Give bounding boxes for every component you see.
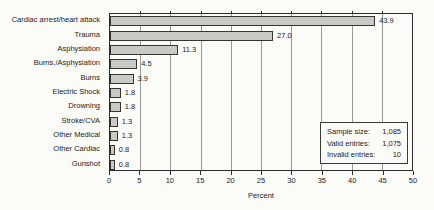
bar-chart-figure: 43.927.011.34.53.91.81.81.31.30.80.8 Car… bbox=[0, 0, 434, 210]
x-tick-top bbox=[291, 11, 292, 13]
bar-value-label: 1.8 bbox=[125, 88, 135, 98]
x-tick bbox=[109, 171, 110, 175]
info-row: Valid entries:1,075 bbox=[327, 139, 401, 149]
x-tick-label: 30 bbox=[279, 176, 303, 185]
x-tick bbox=[231, 171, 232, 175]
bar-value-label: 4.5 bbox=[141, 59, 151, 69]
info-label: Valid entries: bbox=[327, 139, 370, 149]
bar-value-label: 43.9 bbox=[379, 16, 394, 26]
x-tick bbox=[291, 171, 292, 175]
category-label: Asphysiation bbox=[0, 44, 100, 54]
x-tick-top bbox=[140, 11, 141, 13]
bar-value-label: 27.0 bbox=[277, 31, 292, 41]
x-tick bbox=[261, 171, 262, 175]
info-row: Invalid entries:10 bbox=[327, 150, 401, 160]
x-tick-label: 20 bbox=[219, 176, 243, 185]
bar-value-label: 1.3 bbox=[122, 131, 132, 141]
x-tick-label: 45 bbox=[371, 176, 395, 185]
bar bbox=[110, 131, 118, 141]
category-label: Drowning bbox=[0, 101, 100, 111]
info-label: Sample size: bbox=[327, 127, 370, 137]
category-label: Trauma bbox=[0, 30, 100, 40]
category-label: Other Cardiac bbox=[0, 144, 100, 154]
bar bbox=[110, 45, 178, 55]
info-value: 1,075 bbox=[382, 139, 401, 149]
bar-value-label: 11.3 bbox=[182, 45, 196, 55]
x-tick bbox=[139, 171, 140, 175]
bar-value-label: 1.3 bbox=[122, 117, 132, 127]
x-tick-top bbox=[352, 11, 353, 13]
bar bbox=[110, 117, 118, 127]
info-value: 10 bbox=[393, 150, 401, 160]
bar-value-label: 1.8 bbox=[125, 102, 135, 112]
bar bbox=[110, 160, 115, 170]
x-tick bbox=[413, 171, 414, 175]
sample-info-box: Sample size:1,085Valid entries:1,075Inva… bbox=[320, 122, 408, 164]
x-tick bbox=[322, 171, 323, 175]
category-label: Other Medical bbox=[0, 130, 100, 140]
x-axis-title: Percent bbox=[109, 191, 413, 200]
category-label: Gunshot bbox=[0, 159, 100, 169]
bar-value-label: 0.8 bbox=[119, 160, 129, 170]
bar bbox=[110, 145, 115, 155]
x-tick-label: 40 bbox=[340, 176, 364, 185]
x-tick-top bbox=[201, 11, 202, 13]
bar bbox=[110, 31, 273, 41]
category-label: Burns bbox=[0, 73, 100, 83]
bar-row: 3.9 bbox=[110, 74, 412, 84]
info-label: Invalid entries: bbox=[327, 150, 375, 160]
x-tick-label: 50 bbox=[401, 176, 425, 185]
bar-row: 11.3 bbox=[110, 45, 412, 55]
info-value: 1,085 bbox=[382, 127, 401, 137]
bar-value-label: 3.9 bbox=[138, 74, 148, 84]
x-axis: 05101520253035404550 bbox=[109, 171, 413, 191]
bar-row: 1.8 bbox=[110, 102, 412, 112]
x-tick-label: 0 bbox=[97, 176, 121, 185]
x-tick-label: 25 bbox=[249, 176, 273, 185]
category-label: Stroke/CVA bbox=[0, 116, 100, 126]
x-tick-top bbox=[321, 11, 322, 13]
bar bbox=[110, 59, 137, 69]
bar-row: 27.0 bbox=[110, 31, 412, 41]
x-tick-top bbox=[382, 11, 383, 13]
category-label: Cardiac arrest/heart attack bbox=[0, 15, 100, 25]
bar bbox=[110, 16, 375, 26]
x-tick-label: 10 bbox=[158, 176, 182, 185]
category-label: Electric Shock bbox=[0, 87, 100, 97]
info-row: Sample size:1,085 bbox=[327, 127, 401, 137]
bar-value-label: 0.8 bbox=[119, 145, 129, 155]
bar bbox=[110, 102, 121, 112]
x-tick bbox=[200, 171, 201, 175]
bar-row: 4.5 bbox=[110, 59, 412, 69]
category-labels: Cardiac arrest/heart attackTraumaAsphysi… bbox=[0, 13, 104, 171]
bar bbox=[110, 88, 121, 98]
category-label: Burns,/Asphysiation bbox=[0, 58, 100, 68]
bar bbox=[110, 74, 134, 84]
x-tick-label: 15 bbox=[188, 176, 212, 185]
bar-row: 43.9 bbox=[110, 16, 412, 26]
x-tick-top bbox=[261, 11, 262, 13]
x-tick-label: 35 bbox=[310, 176, 334, 185]
x-tick bbox=[352, 171, 353, 175]
x-tick bbox=[170, 171, 171, 175]
x-tick-label: 5 bbox=[127, 176, 151, 185]
x-tick-top bbox=[231, 11, 232, 13]
x-tick-top bbox=[170, 11, 171, 13]
bar-row: 1.8 bbox=[110, 88, 412, 98]
x-tick bbox=[383, 171, 384, 175]
